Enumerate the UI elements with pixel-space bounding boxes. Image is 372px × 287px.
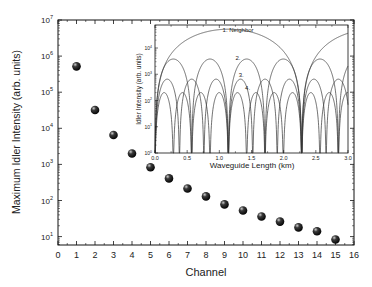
data-point bbox=[220, 200, 229, 209]
main-y-tick-label: 106 bbox=[41, 50, 53, 61]
main-x-tick-label: 8 bbox=[203, 250, 208, 260]
main-x-tick-label: 12 bbox=[275, 250, 285, 260]
inset-curve-label: 2. bbox=[235, 55, 240, 61]
inset-x-tick-label: 0.5 bbox=[183, 155, 191, 161]
data-point bbox=[146, 163, 155, 172]
inset-y-tick-label: 104 bbox=[144, 45, 152, 52]
chart: 012345678910111213141516 101102103104105… bbox=[0, 0, 372, 287]
inset-plot: 0.00.51.01.52.02.53.0 100101102103104 1.… bbox=[135, 25, 352, 170]
main-y-tick-label: 107 bbox=[41, 14, 53, 25]
data-point bbox=[276, 217, 285, 226]
main-x-tick-label: 15 bbox=[330, 250, 340, 260]
data-point bbox=[313, 227, 322, 236]
main-x-tick-label: 0 bbox=[55, 250, 60, 260]
data-point bbox=[109, 131, 118, 140]
main-x-tick-label: 5 bbox=[148, 250, 153, 260]
data-point bbox=[257, 212, 266, 221]
data-point bbox=[294, 223, 303, 232]
inset-x-tick-label: 0.0 bbox=[151, 155, 159, 161]
main-x-tick-label: 14 bbox=[312, 250, 322, 260]
main-x-tick-label: 16 bbox=[349, 250, 359, 260]
main-x-tick-label: 13 bbox=[293, 250, 303, 260]
inset-curve-label: 4. bbox=[245, 85, 250, 91]
data-point bbox=[331, 235, 340, 244]
inset-y-axis-label: Idler Intensity (arb. units) bbox=[135, 53, 143, 125]
data-point bbox=[202, 192, 211, 201]
inset-y-tick-label: 102 bbox=[144, 97, 152, 104]
data-point bbox=[183, 184, 192, 193]
inset-x-tick-label: 3.0 bbox=[344, 155, 352, 161]
inset-curve-label: 1. Neighbor bbox=[223, 27, 254, 33]
main-x-axis-label: Channel bbox=[186, 266, 227, 278]
data-point bbox=[91, 106, 100, 115]
main-y-tick-label: 101 bbox=[41, 231, 53, 242]
inset-curve-label: 3. bbox=[239, 72, 244, 78]
main-y-tick-label: 103 bbox=[41, 158, 53, 169]
data-point bbox=[72, 62, 81, 71]
main-y-tick-label: 104 bbox=[41, 122, 53, 133]
main-x-tick-label: 7 bbox=[185, 250, 190, 260]
main-y-tick-label: 102 bbox=[41, 195, 53, 206]
main-x-tick-label: 10 bbox=[238, 250, 248, 260]
main-x-tick-label: 9 bbox=[222, 250, 227, 260]
inset-x-tick-label: 2.5 bbox=[312, 155, 320, 161]
inset-y-tick-label: 103 bbox=[144, 71, 152, 78]
data-point bbox=[128, 149, 137, 158]
main-x-tick-label: 3 bbox=[111, 250, 116, 260]
data-point bbox=[239, 206, 248, 215]
main-x-tick-label: 11 bbox=[257, 250, 266, 260]
inset-x-axis-label: Waveguide Length (km) bbox=[210, 161, 295, 170]
main-y-tick-label: 105 bbox=[41, 86, 53, 97]
main-x-tick-label: 6 bbox=[166, 250, 171, 260]
main-x-tick-label: 2 bbox=[92, 250, 97, 260]
inset-y-tick-label: 101 bbox=[144, 123, 152, 130]
data-point bbox=[165, 174, 174, 183]
main-x-tick-label: 1 bbox=[74, 250, 79, 260]
main-y-axis-label: Maximum Idler Intensity (arb. units) bbox=[10, 50, 22, 214]
main-x-tick-label: 4 bbox=[129, 250, 134, 260]
